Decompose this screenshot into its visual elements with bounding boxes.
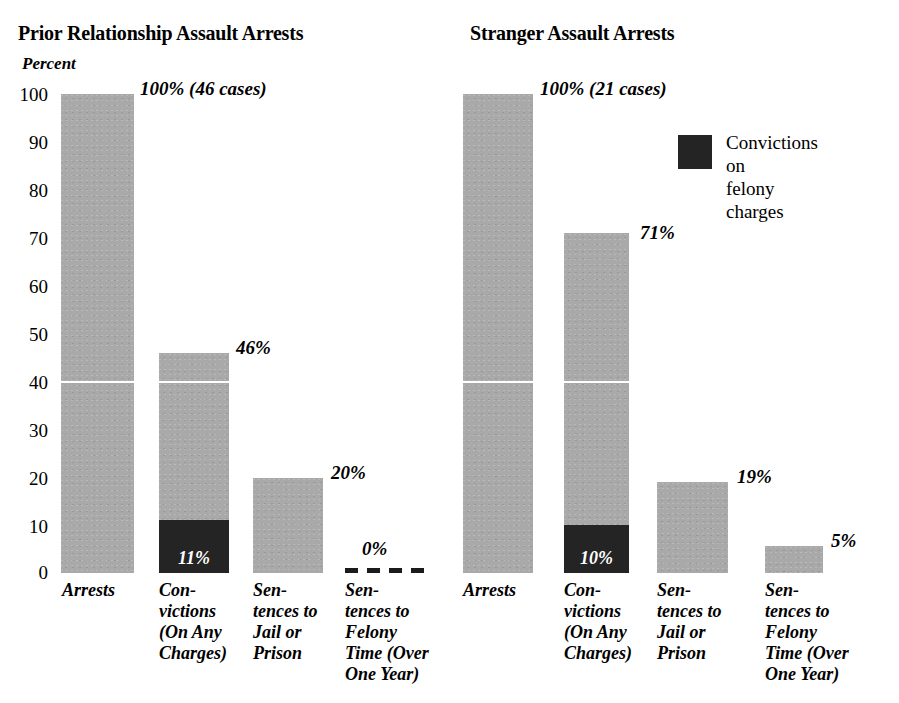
bar-right-arrests[interactable] <box>463 94 533 573</box>
bar-right-convictions[interactable] <box>564 233 629 573</box>
cat-label-right-arrests: Arrests <box>463 580 558 601</box>
cat-label-left-arrests: Arrests <box>62 580 157 601</box>
cat-label-left-sentences-felony: Sen- tences to Felony Time (Over One Yea… <box>345 580 455 685</box>
right-plot-area: 100% (21 cases) 10% 71% 19% 5% Arrests C… <box>450 0 899 703</box>
bar-right-sentences-felony[interactable] <box>765 546 823 573</box>
left-plot-area: 100% (46 cases) 11% 46% 20% 0% Arrests C… <box>0 0 450 703</box>
right-bar2-white-rule <box>564 381 629 383</box>
bar-left-convictions-felony[interactable]: 11% <box>159 520 229 573</box>
value-label-left-convictions-felony: 11% <box>159 548 229 569</box>
cat-label-left-sentences-jail: Sen- tences to Jail or Prison <box>253 580 345 664</box>
cat-label-right-sentences-felony: Sen- tences to Felony Time (Over One Yea… <box>765 580 880 685</box>
value-label-right-convictions-felony: 10% <box>564 548 629 569</box>
left-bar2-white-rule <box>159 381 229 383</box>
value-label-right-convictions: 71% <box>640 222 675 244</box>
bar-left-arrests[interactable] <box>61 94 134 573</box>
chart-canvas: Prior Relationship Assault Arrests Stran… <box>0 0 899 703</box>
bar-right-convictions-felony[interactable]: 10% <box>564 525 629 573</box>
left-bar1-white-rule <box>61 381 134 383</box>
right-bar1-white-rule <box>463 381 533 383</box>
value-label-right-sentences-jail: 19% <box>737 466 772 488</box>
value-label-left-arrests: 100% (46 cases) <box>140 78 267 100</box>
value-label-left-convictions: 46% <box>236 337 271 359</box>
value-label-left-sentences-jail: 20% <box>331 462 366 484</box>
value-label-right-arrests: 100% (21 cases) <box>540 78 667 100</box>
legend-swatch-felony-icon <box>678 135 712 169</box>
legend-label-felony: Convictions on felony charges <box>726 131 818 223</box>
bar-left-sentences-felony-zero[interactable] <box>345 568 425 573</box>
value-label-left-sentences-felony: 0% <box>362 538 387 560</box>
cat-label-right-convictions: Con- victions (On Any Charges) <box>564 580 656 664</box>
bar-left-sentences-jail[interactable] <box>253 478 323 573</box>
bar-right-sentences-jail[interactable] <box>657 482 728 573</box>
cat-label-right-sentences-jail: Sen- tences to Jail or Prison <box>657 580 749 664</box>
cat-label-left-convictions: Con- victions (On Any Charges) <box>159 580 251 664</box>
value-label-right-sentences-felony: 5% <box>831 530 856 552</box>
